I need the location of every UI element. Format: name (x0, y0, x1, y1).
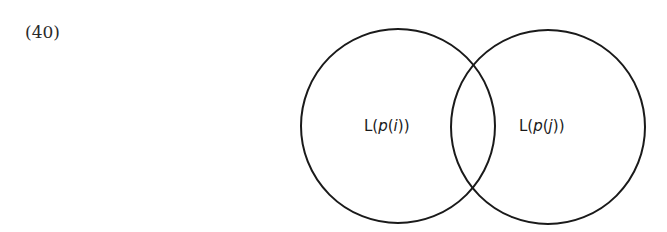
venn-diagram (0, 0, 667, 232)
set-label-left: L(p(i)) (364, 117, 410, 135)
set-label-right: L(p(j)) (519, 117, 565, 135)
